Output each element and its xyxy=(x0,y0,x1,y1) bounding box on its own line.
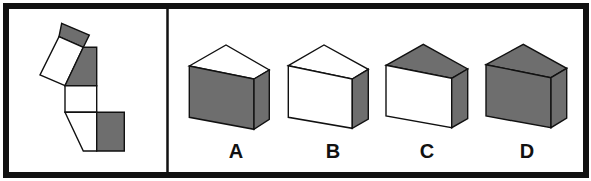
option-c-label[interactable]: C xyxy=(407,141,447,161)
option-d-label[interactable]: D xyxy=(507,141,547,161)
option-a-side-face xyxy=(254,70,269,129)
net-face-middle-square xyxy=(65,86,97,113)
puzzle-canvas xyxy=(0,0,591,181)
option-b-label[interactable]: B xyxy=(313,141,353,161)
net-face-trapezoid xyxy=(65,112,97,151)
option-a-shape[interactable] xyxy=(189,45,269,129)
option-b-shape[interactable] xyxy=(288,45,368,128)
cube-net xyxy=(40,23,124,151)
option-a-label[interactable]: A xyxy=(216,141,256,161)
option-c-side-face xyxy=(452,69,468,128)
option-c-shape[interactable] xyxy=(386,44,468,127)
option-d-shape[interactable] xyxy=(486,44,567,127)
net-face-side-square xyxy=(97,112,125,151)
option-b-side-face xyxy=(352,69,368,128)
option-d-side-face xyxy=(551,68,567,127)
